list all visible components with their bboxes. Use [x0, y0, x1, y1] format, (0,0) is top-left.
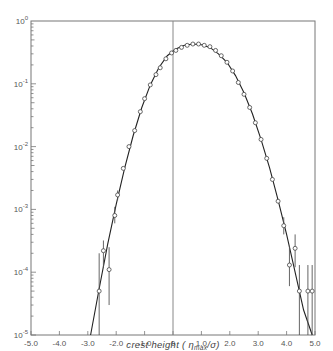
data-point-marker [127, 145, 131, 149]
data-point-marker [174, 48, 178, 52]
data-point-marker [158, 66, 162, 70]
data-point-marker [259, 137, 263, 141]
data-point-marker [287, 263, 291, 267]
data-point-marker [121, 166, 125, 170]
data-point-marker [154, 73, 158, 77]
x-tick-label: 2.0 [224, 339, 236, 348]
data-point-marker [276, 199, 280, 203]
x-tick-label: -2.0 [109, 339, 123, 348]
data-point-marker [197, 42, 201, 46]
data-point-marker [143, 97, 147, 101]
data-point-marker [297, 289, 301, 293]
data-point-marker [133, 129, 137, 133]
y-axis-labels: 10010-110-210-310-410-5 [14, 15, 29, 340]
data-point-marker [214, 48, 218, 52]
y-tick-label: 10-4 [14, 266, 29, 277]
data-point-marker [116, 193, 120, 197]
data-point-marker [101, 249, 105, 253]
data-point-marker [270, 177, 274, 181]
data-point-marker [138, 110, 142, 114]
data-point-marker [164, 57, 168, 61]
y-tick-label: 10-1 [14, 78, 29, 89]
data-point-marker [310, 289, 314, 293]
x-tick-label: -5.0 [24, 339, 38, 348]
data-point-marker [282, 224, 286, 228]
data-point-marker [231, 69, 235, 73]
data-point-marker [170, 51, 174, 55]
data-point-marker [185, 43, 189, 47]
data-point-marker [248, 105, 252, 109]
data-point-marker [148, 83, 152, 87]
data-point-marker [265, 156, 269, 160]
data-point-marker [219, 54, 223, 58]
chart-figure: 10010-110-210-310-410-5 -5.0-4.0-3.0-2.0… [0, 0, 333, 351]
data-point-marker [236, 80, 240, 84]
data-points [97, 42, 314, 335]
y-axis-minor-ticks [31, 24, 36, 335]
y-tick-label: 10-3 [14, 203, 29, 214]
x-tick-label: -4.0 [53, 339, 67, 348]
data-point-marker [202, 43, 206, 47]
x-tick-label: 5.0 [309, 339, 321, 348]
data-point-marker [306, 289, 310, 293]
data-point-marker [208, 45, 212, 49]
data-point-marker [113, 213, 117, 217]
x-tick-label: 3.0 [253, 339, 265, 348]
fit-curve [91, 44, 313, 335]
data-point-marker [107, 268, 111, 272]
data-point-marker [293, 246, 297, 250]
data-point-marker [242, 92, 246, 96]
data-point-marker [225, 60, 229, 64]
x-tick-label: 4.0 [281, 339, 293, 348]
y-tick-label: 100 [16, 15, 29, 26]
data-point-marker [253, 121, 257, 125]
x-tick-label: -3.0 [81, 339, 95, 348]
data-point-marker [180, 45, 184, 49]
data-point-marker [97, 289, 101, 293]
y-tick-label: 10-2 [14, 141, 29, 152]
data-point-marker [191, 42, 195, 46]
